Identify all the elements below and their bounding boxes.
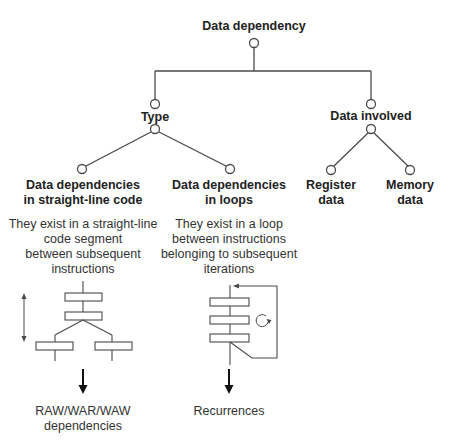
memory-data-label: Memory data xyxy=(386,178,434,208)
register-node-circle xyxy=(327,166,336,175)
raw-war-waw-result: RAW/WAR/WAW dependencies xyxy=(35,404,130,434)
recurrences-result: Recurrences xyxy=(194,404,265,419)
result-arrows xyxy=(79,369,234,394)
loop-illustration xyxy=(210,284,277,366)
type-label: Type xyxy=(141,110,169,125)
loops-title: Data dependencies in loops xyxy=(172,178,286,208)
type-node-bottom-circle xyxy=(151,125,160,134)
root-node-circle xyxy=(250,39,259,48)
memory-node-circle xyxy=(406,166,415,175)
straight-line-title: Data dependencies in straight-line code xyxy=(24,178,143,208)
straight-line-description: They exist in a straight-line code segme… xyxy=(9,217,158,277)
straight-line-illustration xyxy=(22,281,133,361)
straight-line-node-circle xyxy=(78,165,87,174)
data-involved-node-top-circle xyxy=(367,100,376,109)
data-involved-label: Data involved xyxy=(330,109,411,124)
root-label: Data dependency xyxy=(202,19,306,34)
type-node-top-circle xyxy=(151,100,160,109)
loops-description: They exist in a loop between instruction… xyxy=(161,217,297,277)
data-involved-node-bottom-circle xyxy=(367,125,376,134)
register-data-label: Register data xyxy=(306,178,356,208)
loops-node-circle xyxy=(226,165,235,174)
